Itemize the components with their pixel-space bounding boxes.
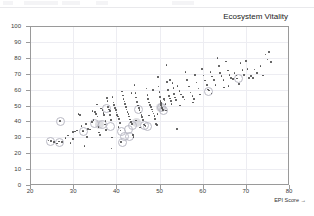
data-point[interactable] — [107, 106, 109, 108]
data-point[interactable] — [147, 98, 149, 100]
data-point[interactable] — [173, 93, 175, 95]
data-point[interactable] — [93, 119, 95, 121]
data-point[interactable] — [118, 118, 120, 120]
data-point[interactable] — [72, 138, 74, 140]
data-point[interactable] — [81, 125, 83, 127]
data-point[interactable] — [192, 95, 194, 97]
data-point[interactable] — [170, 100, 172, 102]
data-point[interactable] — [151, 109, 153, 111]
data-point[interactable] — [268, 51, 270, 53]
data-point[interactable] — [135, 92, 137, 94]
data-point[interactable] — [115, 109, 117, 111]
data-point[interactable] — [135, 120, 137, 122]
data-point[interactable] — [131, 123, 133, 125]
data-point[interactable] — [157, 76, 159, 78]
data-point[interactable] — [111, 137, 113, 139]
data-point[interactable] — [134, 84, 136, 86]
data-point[interactable] — [175, 99, 177, 101]
data-point[interactable] — [84, 145, 86, 147]
data-point[interactable] — [95, 113, 97, 115]
data-point[interactable] — [91, 121, 93, 123]
data-point[interactable] — [59, 120, 61, 122]
data-point[interactable] — [238, 83, 240, 85]
data-point[interactable] — [179, 90, 181, 92]
data-point[interactable] — [99, 134, 101, 136]
data-point[interactable] — [125, 106, 127, 108]
data-point[interactable] — [128, 113, 130, 115]
data-point[interactable] — [252, 77, 254, 79]
data-point[interactable] — [103, 114, 105, 116]
data-point[interactable] — [270, 61, 272, 63]
scatter-chart[interactable]: Ecosystem Vitality 010203040506070809010… — [0, 8, 314, 216]
data-point[interactable] — [166, 64, 168, 66]
data-point[interactable] — [168, 95, 170, 97]
data-point[interactable] — [109, 114, 111, 116]
data-point[interactable] — [50, 140, 52, 142]
data-point[interactable] — [156, 124, 158, 126]
data-point[interactable] — [188, 86, 190, 88]
data-point[interactable] — [199, 94, 201, 96]
data-point[interactable] — [167, 89, 169, 91]
data-point[interactable] — [217, 57, 219, 59]
data-point[interactable] — [232, 78, 234, 80]
data-point[interactable] — [148, 102, 150, 104]
data-point[interactable] — [162, 109, 164, 111]
data-point[interactable] — [106, 97, 108, 99]
data-point[interactable] — [79, 114, 81, 116]
data-point[interactable] — [186, 79, 188, 81]
data-point[interactable] — [193, 98, 195, 100]
data-point[interactable] — [169, 79, 171, 81]
data-point[interactable] — [213, 79, 215, 81]
data-point[interactable] — [160, 100, 162, 102]
data-point[interactable] — [242, 69, 244, 71]
data-point[interactable] — [147, 94, 149, 96]
data-point[interactable] — [58, 141, 60, 143]
data-point[interactable] — [157, 113, 159, 115]
data-point[interactable] — [105, 129, 107, 131]
data-point[interactable] — [142, 119, 144, 121]
data-point[interactable] — [67, 135, 69, 137]
data-point[interactable] — [61, 141, 63, 143]
data-point[interactable] — [154, 118, 156, 120]
data-point[interactable] — [180, 94, 182, 96]
data-point[interactable] — [86, 136, 88, 138]
data-point[interactable] — [159, 96, 161, 98]
data-point[interactable] — [120, 141, 122, 143]
data-point[interactable] — [223, 79, 225, 81]
data-point[interactable] — [113, 102, 115, 104]
data-point[interactable] — [148, 115, 150, 117]
data-point[interactable] — [112, 96, 114, 98]
data-point[interactable] — [218, 65, 220, 67]
data-point[interactable] — [185, 71, 187, 73]
data-point[interactable] — [173, 87, 175, 89]
data-point[interactable] — [219, 72, 221, 74]
data-point[interactable] — [256, 72, 258, 74]
data-point[interactable] — [136, 101, 138, 103]
data-point[interactable] — [89, 129, 91, 131]
data-point[interactable] — [182, 96, 184, 98]
data-point[interactable] — [248, 77, 250, 79]
data-point[interactable] — [172, 82, 174, 84]
data-point[interactable] — [176, 128, 178, 130]
data-point[interactable] — [210, 71, 212, 73]
data-point[interactable] — [85, 123, 87, 125]
data-point[interactable] — [194, 74, 196, 76]
data-point[interactable] — [152, 89, 154, 91]
data-point[interactable] — [154, 115, 156, 117]
data-point[interactable] — [114, 107, 116, 109]
data-point[interactable] — [53, 141, 55, 143]
data-point[interactable] — [124, 103, 126, 105]
data-point[interactable] — [113, 104, 115, 106]
data-point[interactable] — [225, 61, 227, 63]
data-point[interactable] — [110, 119, 112, 121]
data-point[interactable] — [65, 137, 67, 139]
data-point[interactable] — [139, 127, 141, 129]
data-point[interactable] — [245, 60, 247, 62]
selected-point-ring[interactable] — [106, 122, 115, 131]
data-point[interactable] — [150, 106, 152, 108]
data-point[interactable] — [243, 74, 245, 76]
data-point[interactable] — [119, 122, 121, 124]
data-point[interactable] — [201, 68, 203, 70]
data-point[interactable] — [109, 110, 111, 112]
data-point[interactable] — [206, 84, 208, 86]
